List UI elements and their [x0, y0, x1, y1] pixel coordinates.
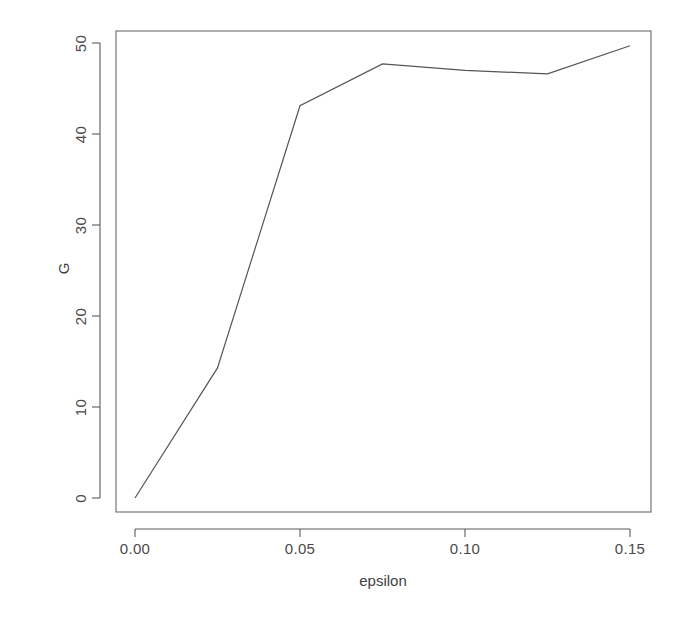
y-tick-label: 50 — [72, 29, 89, 59]
y-axis-title: G — [55, 249, 72, 289]
y-tick-label: 0 — [72, 484, 89, 514]
x-tick-label: 0.15 — [615, 540, 645, 557]
x-axis-ticks — [135, 529, 630, 537]
y-tick-label: 30 — [72, 211, 89, 241]
chart-figure: 0.00 0.05 0.10 0.15 0 10 20 30 40 50 eps… — [0, 0, 682, 629]
x-tick-label: 0.10 — [450, 540, 480, 557]
y-tick-label: 40 — [72, 120, 89, 150]
x-tick-label: 0.05 — [285, 540, 315, 557]
line-chart-canvas — [0, 0, 682, 629]
data-series-line — [135, 46, 630, 498]
y-axis-ticks — [92, 43, 100, 498]
x-axis-title: epsilon — [359, 572, 407, 589]
x-tick-label: 0.00 — [120, 540, 150, 557]
y-tick-label: 20 — [72, 302, 89, 332]
y-tick-label: 10 — [72, 393, 89, 423]
plot-box-frame — [116, 31, 651, 512]
